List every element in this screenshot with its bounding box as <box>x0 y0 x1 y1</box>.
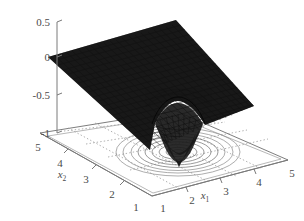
x2-tick-0: 5 <box>35 141 41 153</box>
x1-tick-1: 2 <box>189 194 195 206</box>
figure-3d-surface-plot: 0.5 0 -0.5 -1 5 4 3 2 1 1 2 3 4 5 x2 x1 <box>0 0 304 221</box>
x2-axis-title: x2 <box>57 168 67 183</box>
x2-tick-4: 1 <box>133 201 139 213</box>
labels-layer: 0.5 0 -0.5 -1 5 4 3 2 1 1 2 3 4 5 x2 x1 <box>0 0 304 221</box>
x1-tick-3: 4 <box>256 176 262 188</box>
z-tick-3: -1 <box>41 127 50 139</box>
z-tick-1: 0 <box>45 51 51 63</box>
x1-tick-2: 3 <box>223 185 229 197</box>
z-tick-0: 0.5 <box>36 16 50 28</box>
x2-tick-3: 2 <box>109 188 115 200</box>
x2-tick-2: 3 <box>83 173 89 185</box>
z-tick-2: -0.5 <box>33 89 51 101</box>
x1-tick-0: 1 <box>160 202 166 214</box>
x1-axis-title: x1 <box>200 189 210 204</box>
x1-tick-4: 5 <box>289 167 295 179</box>
